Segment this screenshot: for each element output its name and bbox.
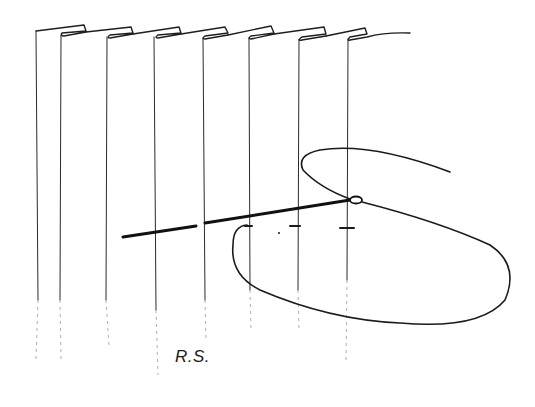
pleat-top-7 <box>326 28 410 40</box>
right-side-label: R.S. <box>175 347 210 367</box>
pleat-top-5 <box>228 26 274 39</box>
pleat-tops <box>36 25 410 40</box>
thread-upper-tail <box>301 148 450 199</box>
pleat-illustration <box>0 0 535 407</box>
stitch-marks <box>245 226 354 234</box>
needle-eye <box>350 197 362 204</box>
needle <box>123 197 362 238</box>
pleat-top-6 <box>274 27 326 40</box>
thread <box>233 148 510 324</box>
pleat-top-3 <box>133 27 181 38</box>
pleat-top-1 <box>36 25 86 36</box>
pleat-top-2 <box>86 27 133 38</box>
pleat-top-4 <box>181 27 228 39</box>
thread-loop <box>233 202 510 324</box>
pleat-lines <box>36 31 348 375</box>
